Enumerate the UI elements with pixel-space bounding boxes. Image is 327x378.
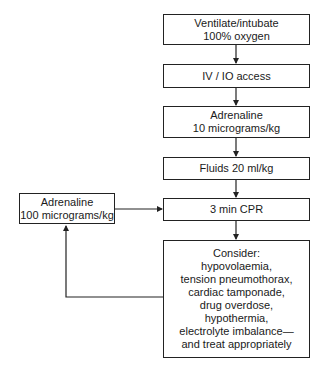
node-cpr: 3 min CPR	[163, 198, 310, 221]
node-text: tension pneumothorax,	[181, 273, 293, 286]
node-text: Adrenaline	[210, 109, 263, 122]
node-text: cardiac tamponade,	[188, 286, 285, 299]
node-text: Adrenaline	[41, 196, 94, 209]
node-adrenaline-10: Adrenaline 10 micrograms/kg	[163, 106, 310, 138]
node-text: hypovolaemia,	[201, 260, 272, 273]
node-access: IV / IO access	[163, 64, 310, 88]
node-text: Consider:	[213, 247, 260, 260]
arrow-consider-to-adrenaline100	[66, 226, 163, 297]
node-ventilate: Ventilate/intubate 100% oxygen	[163, 14, 310, 45]
node-text: and treat appropriately	[181, 338, 291, 351]
node-text: electrolyte imbalance—	[179, 325, 293, 338]
node-text: drug overdose,	[200, 299, 273, 312]
node-adrenaline-100: Adrenaline 100 micrograms/kg	[19, 193, 115, 224]
node-text: 10 micrograms/kg	[193, 122, 280, 135]
node-text: Ventilate/intubate	[194, 17, 278, 30]
node-text: IV / IO access	[202, 70, 270, 83]
node-text: 100 micrograms/kg	[20, 209, 114, 222]
node-text: 100% oxygen	[203, 30, 270, 43]
node-consider: Consider: hypovolaemia, tension pneumoth…	[163, 240, 310, 358]
node-text: Fluids 20 ml/kg	[200, 162, 274, 175]
node-text: hypothermia,	[205, 312, 269, 325]
node-fluids: Fluids 20 ml/kg	[163, 157, 310, 180]
node-text: 3 min CPR	[210, 203, 263, 216]
